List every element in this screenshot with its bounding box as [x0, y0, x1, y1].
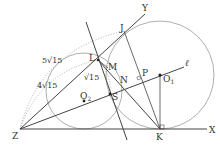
right-angle-k — [160, 125, 164, 129]
label-y: Y — [141, 3, 149, 13]
label-o1: O1 — [163, 74, 174, 85]
label-j: J — [119, 23, 124, 33]
label-m: M — [108, 62, 117, 72]
point-o1 — [158, 73, 161, 76]
point-s — [109, 93, 112, 96]
measure-outer: 5√15 — [42, 56, 62, 65]
label-l: L — [89, 53, 95, 63]
label-p: P — [142, 68, 148, 78]
label-s: S — [112, 92, 118, 102]
ray-zy — [20, 14, 145, 129]
label-x: X — [209, 125, 216, 135]
label-n: N — [120, 75, 128, 85]
measure-small: √15 — [84, 73, 99, 82]
right-angle-p — [137, 76, 141, 80]
label-z: Z — [12, 131, 18, 141]
measure-inner: 4√15 — [37, 81, 57, 90]
geometry-diagram: Z X Y J K L M N P S O1 O2 ℓ 5√15 4√15 √1… — [0, 0, 220, 149]
label-line-l: ℓ — [185, 58, 189, 68]
label-k: K — [156, 132, 163, 142]
label-o2: O2 — [80, 91, 91, 102]
point-l — [97, 59, 99, 61]
segment-jk — [124, 31, 160, 129]
